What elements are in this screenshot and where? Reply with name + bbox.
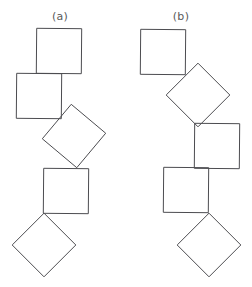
square-a2 (16, 73, 61, 118)
square-a5 (12, 213, 76, 277)
square-a3 (42, 104, 105, 167)
panel-label-b: (b) (173, 10, 189, 23)
panel-label-a: (a) (52, 10, 68, 23)
square-b4 (163, 167, 208, 212)
shape-layer (12, 28, 241, 277)
figure-canvas: (a) (b) (0, 0, 252, 287)
square-a4 (43, 168, 88, 213)
square-a1 (36, 28, 81, 73)
square-b2 (166, 63, 230, 127)
square-b3 (194, 123, 239, 168)
square-b1 (140, 29, 185, 74)
square-chain-diagram (0, 0, 252, 287)
square-b5 (177, 213, 241, 277)
